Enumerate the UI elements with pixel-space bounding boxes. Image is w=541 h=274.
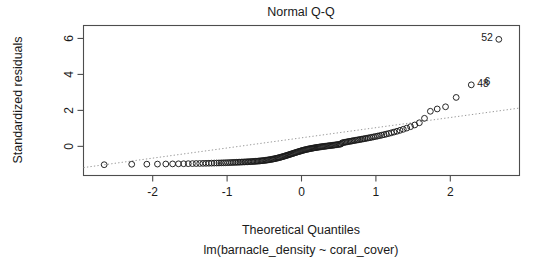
y-tick-label: 0 <box>62 143 76 150</box>
y-tick-label: 6 <box>62 35 76 42</box>
x-axis-title: Theoretical Quantiles <box>242 223 360 237</box>
y-axis-title: Standardized residuals <box>11 36 25 163</box>
y-tick-label: 2 <box>62 107 76 114</box>
plot-title: Normal Q-Q <box>267 5 335 19</box>
qq-plot-figure: Normal Q-Q -2-1012 0246 52486 Theoretica… <box>0 0 541 274</box>
x-tick-label: 0 <box>298 185 305 199</box>
x-tick-label: -1 <box>222 185 233 199</box>
qq-plot-canvas: Normal Q-Q -2-1012 0246 52486 Theoretica… <box>0 0 541 274</box>
outlier-label: 6 <box>485 75 491 87</box>
x-tick-label: -2 <box>147 185 158 199</box>
x-tick-label: 1 <box>373 185 380 199</box>
y-tick-label: 4 <box>62 71 76 78</box>
outlier-label: 52 <box>481 31 493 43</box>
model-subtitle: lm(barnacle_density ~ coral_cover) <box>204 243 399 257</box>
x-tick-label: 2 <box>447 185 454 199</box>
